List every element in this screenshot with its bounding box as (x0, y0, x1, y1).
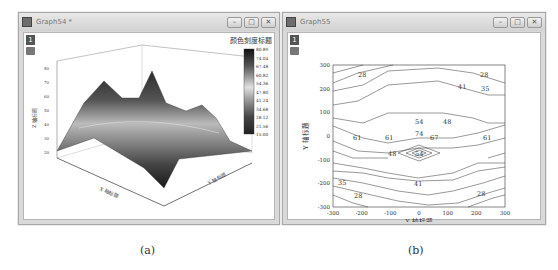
contour-plot: 28 41 28 35 54 48 61 61 74 67 61 48 54 3… (288, 33, 542, 222)
z-axis-ticks: 80 70 60 50 40 30 20 (44, 66, 50, 155)
svg-text:40: 40 (44, 122, 50, 127)
graph54-window[interactable]: Graph54 * – □ ✕ 1 (18, 12, 280, 225)
lock-icon[interactable] (26, 47, 35, 55)
svg-text:67: 67 (430, 134, 438, 142)
svg-text:41: 41 (414, 180, 422, 188)
svg-text:54: 54 (415, 150, 423, 158)
caption-a: (a) (140, 244, 155, 257)
caption-b: (b) (408, 244, 424, 257)
svg-text:48: 48 (388, 150, 396, 158)
svg-text:80: 80 (44, 66, 50, 71)
svg-text:30: 30 (44, 136, 50, 141)
svg-text:0: 0 (417, 210, 421, 216)
svg-text:-200: -200 (356, 210, 369, 216)
svg-text:70: 70 (44, 80, 50, 85)
svg-text:100: 100 (320, 109, 331, 115)
window-title: Graph54 * (36, 18, 227, 26)
restore-button[interactable]: □ (244, 17, 259, 28)
svg-text:28: 28 (354, 192, 362, 200)
svg-text:100: 100 (442, 210, 453, 216)
layer-badge[interactable]: 1 (26, 35, 35, 45)
svg-text:61: 61 (483, 134, 491, 142)
svg-text:35: 35 (481, 85, 489, 93)
graph-app-icon (22, 17, 32, 27)
svg-text:61: 61 (353, 134, 361, 142)
svg-text:300: 300 (500, 210, 511, 216)
svg-text:-200: -200 (318, 180, 331, 186)
y-axis-title: Y 轴标题 (206, 171, 228, 187)
graph-canvas[interactable]: 1 (23, 32, 275, 220)
lock-icon[interactable] (290, 47, 299, 55)
svg-text:200: 200 (320, 86, 331, 92)
svg-text:74.04: 74.04 (256, 56, 269, 61)
graph55-window[interactable]: Graph55 – □ ✕ 1 (282, 12, 546, 225)
svg-text:21.56: 21.56 (256, 124, 269, 129)
svg-text:28: 28 (477, 190, 485, 198)
graph-app-icon (286, 17, 296, 27)
titlebar[interactable]: Graph55 – □ ✕ (283, 13, 545, 31)
svg-text:-100: -100 (384, 210, 397, 216)
z-axis-title: Z 轴标题 (31, 108, 38, 128)
svg-text:54.36: 54.36 (256, 81, 269, 86)
layer-badge[interactable]: 1 (290, 35, 299, 45)
svg-text:28.12: 28.12 (256, 115, 269, 120)
svg-text:50: 50 (44, 108, 50, 113)
surface-mesh (57, 71, 252, 188)
svg-text:34.68: 34.68 (256, 107, 269, 112)
window-title: Graph55 (300, 18, 493, 26)
svg-text:35: 35 (338, 179, 346, 187)
graph-canvas[interactable]: 1 (287, 32, 541, 220)
x-axis-title: X 轴标题 (98, 185, 119, 200)
svg-text:-300: -300 (327, 210, 340, 216)
svg-text:28: 28 (358, 71, 366, 79)
svg-text:67.48: 67.48 (256, 64, 269, 69)
colorbar-ticks: 80.89 74.04 67.48 60.82 54.36 47.80 41.2… (256, 47, 269, 137)
x-axis-ticks: -300 -200 -100 0 100 200 300 (327, 210, 511, 216)
contour-labels: 28 41 28 35 54 48 61 61 74 67 61 48 54 3… (338, 71, 491, 200)
surface-3d-plot: 80 70 60 50 40 30 20 Z 轴标题 X 轴标题 Y 轴标题 颜… (24, 33, 276, 222)
svg-text:60.82: 60.82 (256, 73, 269, 78)
svg-text:54: 54 (415, 118, 423, 126)
close-button[interactable]: ✕ (261, 17, 276, 28)
close-button[interactable]: ✕ (527, 17, 542, 28)
svg-text:74: 74 (415, 130, 423, 138)
svg-text:300: 300 (320, 62, 331, 68)
svg-text:60: 60 (44, 94, 50, 99)
colorbar-title: 颜色刻度标题 (230, 36, 272, 45)
svg-text:47.80: 47.80 (256, 90, 269, 95)
svg-text:48: 48 (443, 118, 451, 126)
svg-text:200: 200 (471, 210, 482, 216)
y-axis-ticks: 300 200 100 0 -100 -200 -300 (318, 62, 331, 210)
svg-text:0: 0 (327, 133, 331, 139)
y-axis-title: Y 轴标题 (301, 122, 310, 150)
svg-text:41: 41 (458, 83, 466, 91)
svg-text:20: 20 (44, 150, 50, 155)
svg-text:61: 61 (385, 134, 393, 142)
svg-text:28: 28 (480, 71, 488, 79)
colorbar (244, 49, 254, 134)
minimize-button[interactable]: – (493, 17, 508, 28)
svg-text:-100: -100 (318, 157, 331, 163)
svg-text:41.24: 41.24 (256, 98, 269, 103)
svg-text:80.89: 80.89 (256, 47, 269, 52)
svg-text:15.00: 15.00 (256, 132, 269, 137)
minimize-button[interactable]: – (227, 17, 242, 28)
restore-button[interactable]: □ (510, 17, 525, 28)
x-axis-title: X 轴标题 (405, 217, 433, 222)
titlebar[interactable]: Graph54 * – □ ✕ (19, 13, 279, 31)
